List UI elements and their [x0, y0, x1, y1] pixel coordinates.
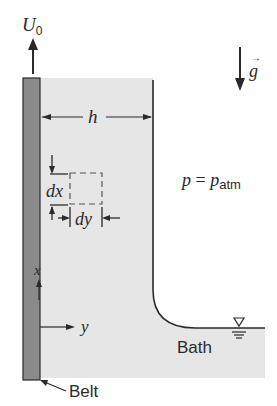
- x-axis-label: x: [34, 263, 41, 278]
- dy-label: dy: [75, 210, 92, 228]
- velocity-arrow-icon: [28, 38, 38, 74]
- gravity-label: → g: [249, 62, 258, 80]
- pressure-label: p = patm: [182, 171, 241, 189]
- dx-label: dx: [46, 182, 63, 200]
- belt-label: Belt: [69, 383, 98, 400]
- y-axis-label: y: [81, 318, 89, 335]
- vector-arrow-icon: →: [251, 53, 261, 63]
- belt-leader-line: [40, 380, 66, 391]
- bath-label: Bath: [177, 339, 212, 356]
- belt: [23, 78, 40, 380]
- film-free-surface: [153, 80, 265, 328]
- gravity-arrow-icon: [235, 47, 245, 91]
- belt-film-diagram: [0, 0, 277, 406]
- velocity-label: U0: [22, 15, 42, 34]
- film-thickness-label: h: [88, 107, 98, 126]
